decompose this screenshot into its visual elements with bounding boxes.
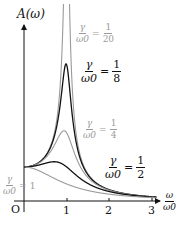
label-ratio-1-2: γω0 = 12 <box>105 155 145 180</box>
label-rden: 2 <box>137 168 144 180</box>
label-eq: = <box>124 161 133 174</box>
label-den: ω0 <box>76 34 89 44</box>
label-ratio-1-8: γω0 = 18 <box>81 59 121 84</box>
label-den: ω0 <box>3 186 16 196</box>
label-eq: = <box>19 181 27 191</box>
x-tick-label-1: 1 <box>63 204 70 217</box>
x-axis-label: ωω0 <box>163 191 176 212</box>
label-den: ω0 <box>81 72 97 84</box>
label-rden: 8 <box>113 72 120 84</box>
label-rnum: 1 <box>112 59 121 72</box>
label-den: ω0 <box>105 168 121 180</box>
label-num: γ <box>86 119 93 130</box>
label-den: ω0 <box>83 130 96 140</box>
label-eq: = <box>100 65 109 78</box>
label-eq: = <box>92 29 100 39</box>
label-ratio-1-4: γω0 = 14 <box>83 119 117 140</box>
label-num: γ <box>109 155 118 168</box>
label-ratio-1-20: γω0 = 120 <box>76 23 114 44</box>
label-num: γ <box>85 59 94 72</box>
x-axis-label-den: ω0 <box>163 202 176 212</box>
x-tick-label-3: 3 <box>148 204 155 217</box>
y-axis-label: A(ω) <box>17 7 45 21</box>
label-ratio-1: γω0 = 1 <box>3 175 35 196</box>
label-eq: = <box>99 125 107 135</box>
label-num: γ <box>79 23 86 34</box>
label-rden: 4 <box>111 130 117 140</box>
x-axis-label-num: ω <box>165 191 174 202</box>
label-rnum: 1 <box>104 23 112 34</box>
label-rval: 1 <box>30 181 36 191</box>
label-rden: 20 <box>103 34 114 44</box>
origin-label: O <box>11 203 20 216</box>
label-num: γ <box>6 175 13 186</box>
label-rnum: 1 <box>110 119 118 130</box>
label-rnum: 1 <box>136 155 145 168</box>
x-tick-label-2: 2 <box>105 204 112 217</box>
